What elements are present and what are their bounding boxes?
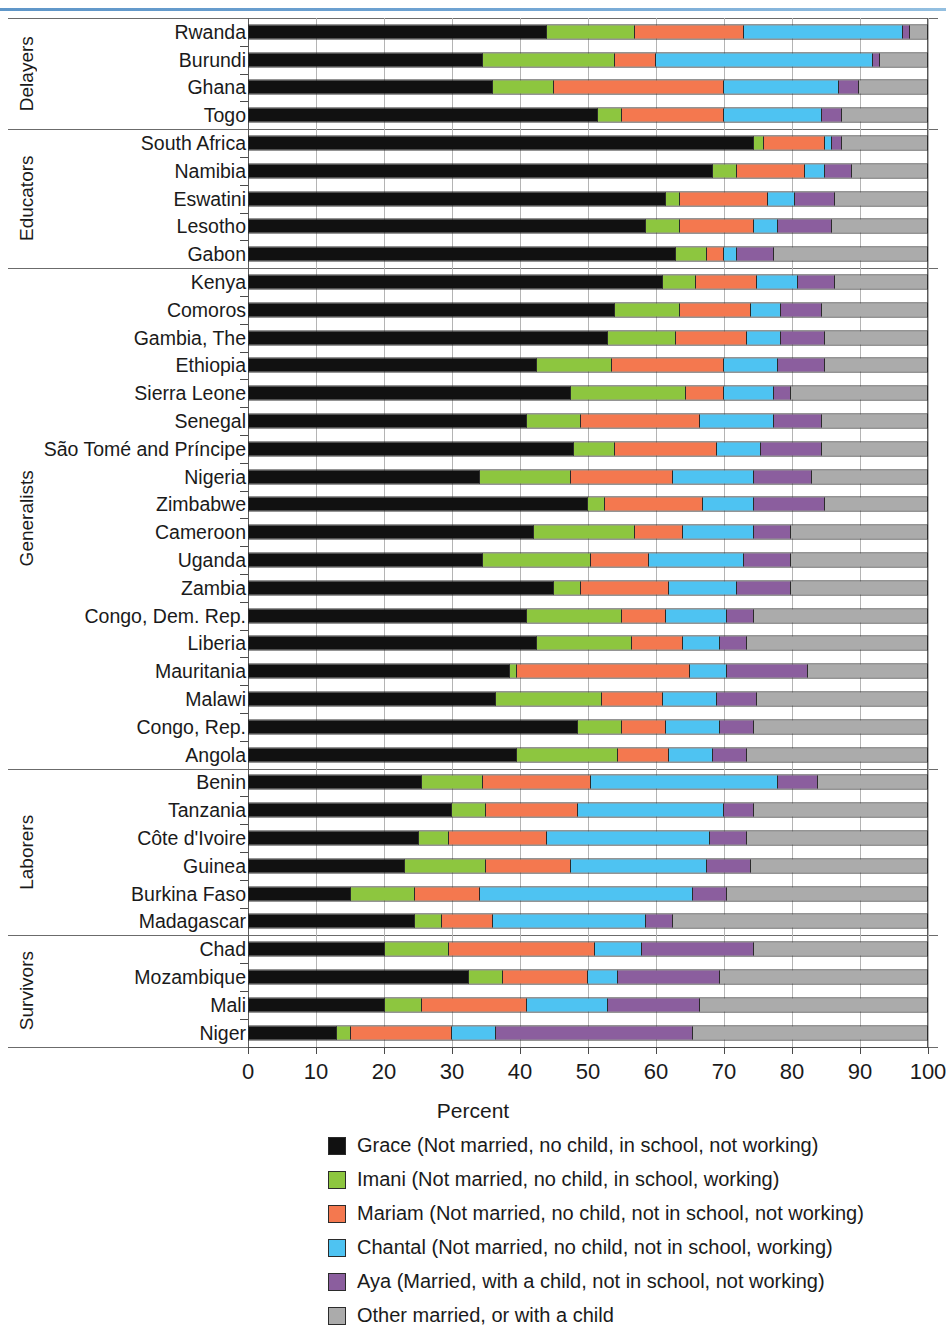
bar-segment-mariam (591, 554, 649, 567)
bar-segment-imani (351, 887, 415, 900)
bar-segment-mariam (581, 581, 669, 594)
row-label: Tanzania (168, 799, 246, 822)
bar-segment-chantal (527, 998, 608, 1011)
bar-segment-other (754, 804, 927, 817)
bar-segment-other (812, 470, 927, 483)
bar-segment-chantal (700, 415, 775, 428)
bar-segment-other (859, 81, 927, 94)
row-label: Mozambique (134, 966, 246, 989)
bar-segment-grace (249, 1026, 337, 1039)
bar-segment-mariam (449, 832, 547, 845)
row-label: São Tomé and Príncipe (44, 437, 246, 460)
bar-segment-grace (249, 776, 422, 789)
bar-segment-mariam (442, 915, 493, 928)
bar-segment-chantal (493, 915, 646, 928)
stacked-bar (248, 163, 928, 178)
bar-segment-other (825, 498, 927, 511)
stacked-bar (248, 664, 928, 679)
legend-item-chantal: Chantal (Not married, no child, not in s… (0, 1231, 946, 1265)
bar-segment-chantal (683, 637, 720, 650)
legend-label: Aya (Married, with a child, not in schoo… (357, 1270, 825, 1293)
bar-segment-aya (717, 693, 758, 706)
plot-area: DelayersRwandaBurundiGhanaTogoEducatorsS… (0, 18, 946, 1047)
bar-segment-other (822, 442, 927, 455)
legend-label: Grace (Not married, no child, in school,… (357, 1134, 818, 1157)
legend-item-aya: Aya (Married, with a child, not in schoo… (0, 1265, 946, 1299)
stacked-bar (248, 719, 928, 734)
bar-segment-grace (249, 53, 483, 66)
bar-segment-other (791, 581, 927, 594)
stacked-bar (248, 80, 928, 95)
bar-segment-imani (422, 776, 483, 789)
bar-segment-mariam (680, 192, 768, 205)
bar-segment-imani (415, 915, 442, 928)
bar-segment-aya (795, 192, 836, 205)
bar-segment-mariam (737, 164, 805, 177)
bar-segment-mariam (622, 609, 666, 622)
bar-segment-grace (249, 415, 527, 428)
bar-segment-imani (646, 220, 680, 233)
legend-swatch-other (328, 1307, 346, 1325)
stacked-bar (248, 636, 928, 651)
bar-segment-imani (574, 442, 615, 455)
stacked-bar (248, 497, 928, 512)
bar-segment-imani (469, 971, 503, 984)
bar-segment-grace (249, 526, 534, 539)
bar-segment-grace (249, 887, 351, 900)
stacked-bar (248, 914, 928, 929)
bar-segment-chantal (571, 859, 707, 872)
stacked-bar (248, 52, 928, 67)
stacked-bar (248, 275, 928, 290)
bar-segment-imani (493, 81, 554, 94)
bar-segment-other (835, 276, 927, 289)
bar-segment-other (825, 359, 927, 372)
stacked-bar (248, 580, 928, 595)
stacked-bar (248, 330, 928, 345)
bar-segment-mariam (503, 971, 588, 984)
stacked-bar (248, 692, 928, 707)
stacked-bar (248, 608, 928, 623)
bar-segment-imani (571, 387, 686, 400)
bar-segment-grace (249, 915, 415, 928)
bar-segment-grace (249, 498, 588, 511)
bar-segment-imani (480, 470, 572, 483)
row-label: Burkina Faso (131, 882, 246, 905)
stacked-bar (248, 136, 928, 151)
bar-segment-other (751, 859, 927, 872)
bar-segment-chantal (747, 331, 781, 344)
bar-segment-other (754, 943, 927, 956)
row-label: Liberia (187, 632, 246, 655)
row-label: Uganda (178, 549, 246, 572)
row-label: Eswatini (173, 187, 246, 210)
bar-segment-mariam (635, 526, 682, 539)
bar-segment-aya (798, 276, 835, 289)
stacked-bar (248, 108, 928, 123)
bar-segment-chantal (744, 25, 903, 38)
bar-segment-aya (754, 470, 812, 483)
bar-segment-aya (720, 720, 754, 733)
x-tick-label: 60 (644, 1059, 668, 1085)
bar-segment-mariam (696, 276, 757, 289)
bar-segment-other (880, 53, 927, 66)
bar-segment-aya (903, 25, 910, 38)
bar-segment-other (808, 665, 927, 678)
stacked-bar (248, 858, 928, 873)
gridline (928, 18, 929, 1047)
bar-segment-aya (693, 887, 727, 900)
bar-segment-chantal (669, 748, 713, 761)
x-tick-label: 0 (242, 1059, 254, 1085)
bar-segment-chantal (452, 1026, 496, 1039)
bar-segment-aya (710, 832, 747, 845)
bar-segment-mariam (686, 387, 723, 400)
bar-segment-other (832, 220, 927, 233)
bar-segment-aya (618, 971, 720, 984)
bar-segment-aya (707, 859, 751, 872)
legend-item-grace: Grace (Not married, no child, in school,… (0, 1129, 946, 1163)
bar-segment-other (747, 637, 927, 650)
bar-segment-imani (554, 581, 581, 594)
bar-segment-chantal (663, 693, 717, 706)
bar-segment-aya (825, 164, 852, 177)
bar-segment-mariam (517, 665, 690, 678)
bar-segment-aya (778, 220, 832, 233)
bar-segment-grace (249, 25, 547, 38)
